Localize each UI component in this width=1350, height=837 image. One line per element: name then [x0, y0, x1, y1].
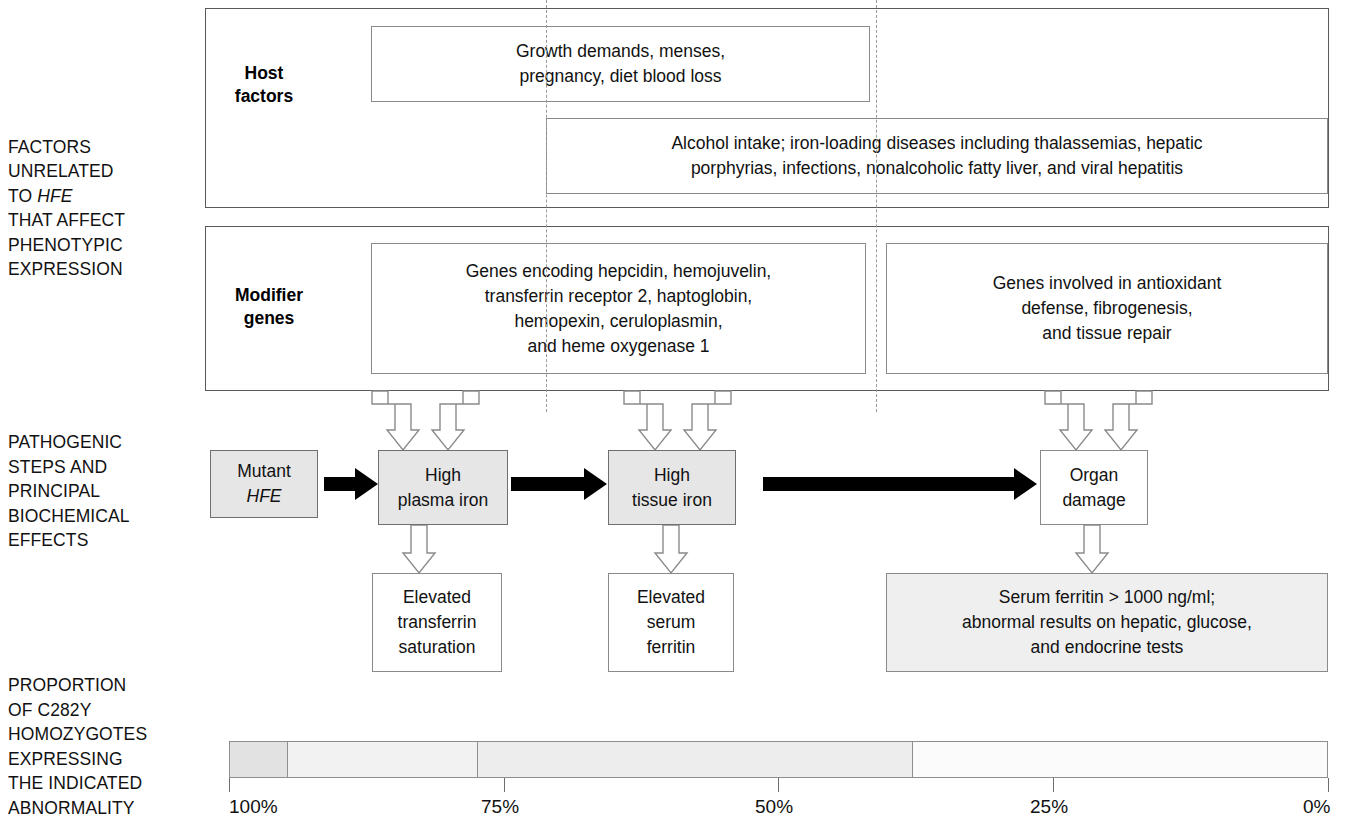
axis-tick-0	[1328, 778, 1329, 792]
flow-box-organ-damage: Organ damage	[1040, 450, 1148, 525]
axis-label-50: 50%	[755, 796, 793, 818]
high-plasma-iron-line1: High	[425, 465, 461, 485]
arrow-host-to-organ	[1045, 391, 1092, 450]
high-tissue-iron-line1: High	[654, 465, 690, 485]
axis-tick-25	[1053, 778, 1054, 792]
effect-box-elevated-transferrin-saturation: Elevated transferrin saturation	[372, 573, 502, 672]
arrow-plasma-to-transferrin	[403, 525, 435, 573]
arrow-organ-to-tests	[1076, 525, 1108, 573]
axis-tick-50	[778, 778, 779, 792]
organ-damage-line1: Organ	[1070, 465, 1119, 485]
arrow-modifier-to-organ	[1105, 391, 1152, 450]
arrow-hfe-to-plasma	[324, 468, 378, 500]
arrow-plasma-to-tissue	[511, 468, 607, 500]
organ-damage-line2: damage	[1062, 490, 1125, 510]
effect-box-serum-ferritin-abnormal: Serum ferritin > 1000 ng/ml; abnormal re…	[886, 573, 1328, 672]
axis-label-0: 0%	[1303, 796, 1330, 818]
proportion-bar-segment-3	[478, 742, 914, 777]
flow-box-high-tissue-iron: High tissue iron	[608, 450, 736, 525]
flow-box-high-plasma-iron: High plasma iron	[378, 450, 508, 525]
arrow-host-to-plasma	[372, 391, 419, 450]
axis-tick-100	[229, 778, 230, 792]
arrow-tissue-to-organ	[763, 468, 1037, 500]
axis-label-75: 75%	[481, 796, 519, 818]
proportion-bar	[229, 741, 1328, 778]
arrow-modifier-to-plasma	[432, 391, 479, 450]
flow-box-mutant-hfe: Mutant HFE	[210, 450, 318, 518]
axis-tick-75	[504, 778, 505, 792]
mutant-hfe-line1: Mutant	[237, 461, 291, 481]
axis-label-25: 25%	[1030, 796, 1068, 818]
high-plasma-iron-line2: plasma iron	[398, 490, 488, 510]
arrow-modifier-to-tissue	[684, 391, 731, 450]
proportion-bar-segment-4	[913, 742, 1327, 777]
effect-box-elevated-serum-ferritin: Elevated serum ferritin	[608, 573, 734, 672]
proportion-bar-segment-1	[230, 742, 288, 777]
axis-label-100: 100%	[229, 796, 278, 818]
arrow-host-to-tissue	[624, 391, 671, 450]
mutant-hfe-line2: HFE	[247, 486, 282, 506]
high-tissue-iron-line2: tissue iron	[632, 490, 712, 510]
arrow-tissue-to-ferritin	[655, 525, 687, 573]
proportion-bar-segment-2	[288, 742, 478, 777]
